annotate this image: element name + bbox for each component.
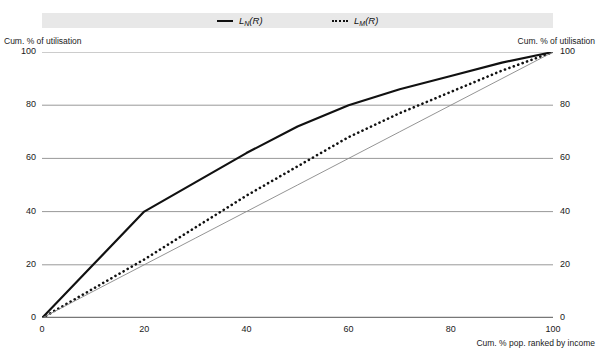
series-line-of-equality <box>42 52 553 318</box>
legend-item-ln-label: LN(R) <box>239 15 263 27</box>
x-tick-label-80: 80 <box>438 324 464 334</box>
y-tick-label-left-40: 40 <box>10 206 36 216</box>
y-tick-label-right-80: 80 <box>560 99 586 109</box>
y-tick-label-left-80: 80 <box>10 99 36 109</box>
x-tick-label-40: 40 <box>233 324 259 334</box>
y-tick-label-right-0: 0 <box>560 312 586 322</box>
y-tick-label-right-20: 20 <box>560 259 586 269</box>
legend-item-lm: LM(R) <box>332 13 378 28</box>
chart-plot-area <box>42 52 553 318</box>
lorenz-curve-chart <box>42 52 553 318</box>
y-tick-label-right-100: 100 <box>560 46 586 56</box>
legend-item-ln: LN(R) <box>217 13 263 28</box>
y-tick-label-left-60: 60 <box>10 152 36 162</box>
y-axis-caption-right: Cum. % of utilisation <box>518 36 595 46</box>
x-tick-label-60: 60 <box>336 324 362 334</box>
legend-solid-line-icon <box>217 20 233 22</box>
y-tick-label-left-20: 20 <box>10 259 36 269</box>
y-tick-label-left-100: 100 <box>10 46 36 56</box>
legend-item-lm-label: LM(R) <box>354 15 378 27</box>
x-tick-label-0: 0 <box>29 324 55 334</box>
legend-dotted-line-icon <box>332 20 348 22</box>
y-tick-label-right-60: 60 <box>560 152 586 162</box>
x-axis-label: Cum. % pop. ranked by income <box>476 338 595 348</box>
x-tick-label-20: 20 <box>131 324 157 334</box>
y-tick-label-left-0: 0 <box>10 312 36 322</box>
y-tick-label-right-40: 40 <box>560 206 586 216</box>
y-axis-caption-left: Cum. % of utilisation <box>4 36 81 46</box>
x-tick-label-100: 100 <box>540 324 566 334</box>
legend: LN(R) LM(R) <box>42 13 553 28</box>
